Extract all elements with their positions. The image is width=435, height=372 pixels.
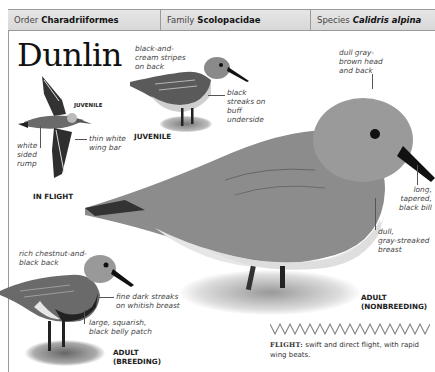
species-label: Species — [317, 15, 350, 25]
head-leader — [372, 74, 373, 89]
family-label: Family — [167, 15, 194, 25]
flight-pattern-zigzag-icon — [270, 322, 430, 336]
family-value: Scolopacidae — [197, 15, 260, 25]
in-flight-caption: IN FLIGHT — [33, 192, 73, 201]
order-cell: Order Charadriiformes — [8, 10, 161, 30]
breeding-breast-label: fine dark streaks on whitish breast — [116, 292, 180, 310]
adult-nonbreeding-caption: ADULT (NONBREEDING) — [361, 293, 427, 311]
belly-label: large, squarish, black belly patch — [89, 318, 152, 336]
breast-leader — [375, 198, 376, 230]
adult-breeding-caption: ADULT (BREEDING) — [113, 348, 161, 366]
rump-label: white sided rump — [17, 141, 37, 168]
belly-leader — [84, 310, 85, 324]
juvenile-back-label: black-and- cream stripes on back — [135, 44, 186, 71]
order-value: Charadriiformes — [41, 15, 118, 25]
species-cell: Species Calidris alpina — [311, 10, 435, 30]
flight-key: FLIGHT: — [270, 341, 303, 349]
bill-label: long, tapered, black bill — [399, 185, 432, 212]
rump-leader — [40, 126, 41, 148]
order-label: Order — [14, 15, 38, 25]
breeding-back-label: rich chestnut-and- black back — [19, 249, 87, 267]
breast-label: dull, gray-streaked breast — [378, 227, 429, 254]
flight-description: FLIGHT: swift and direct flight, with ra… — [270, 340, 430, 360]
taxonomy-header: Order Charadriiformes Family Scolopacida… — [8, 9, 435, 31]
head-back-label: dull gray- brown head and back — [339, 48, 383, 75]
bill-leader — [417, 165, 418, 185]
species-value: Calidris alpina — [353, 15, 421, 25]
breeding-breast-leader — [98, 297, 114, 298]
family-cell: Family Scolopacidae — [161, 10, 311, 30]
page-title: Dunlin — [17, 36, 122, 74]
